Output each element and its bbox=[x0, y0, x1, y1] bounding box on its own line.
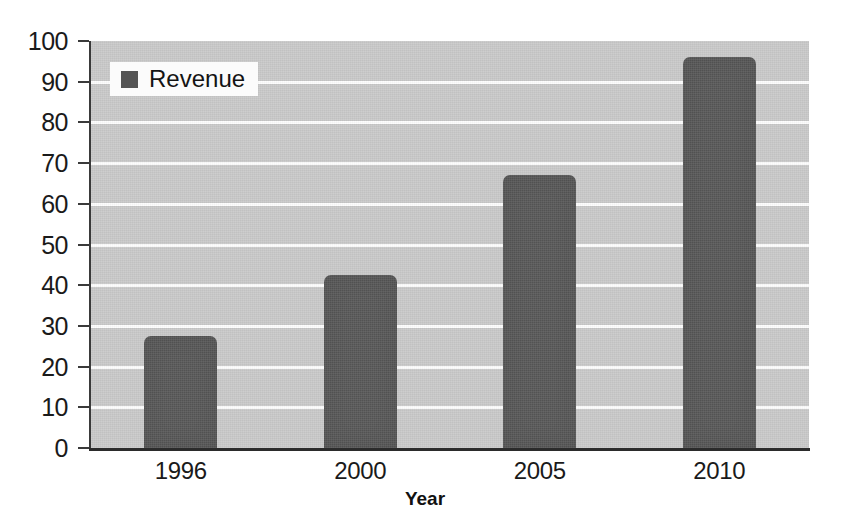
bar-2005 bbox=[503, 175, 576, 448]
y-axis-tick-label: 100 bbox=[12, 29, 68, 54]
y-axis-labels: 0102030405060708090100 bbox=[12, 0, 68, 508]
y-axis-tick-label: 20 bbox=[12, 354, 68, 379]
y-axis-tick bbox=[78, 244, 89, 246]
x-axis-tick-label: 2000 bbox=[290, 459, 430, 483]
y-axis-tick-label: 60 bbox=[12, 191, 68, 216]
y-axis-tick bbox=[78, 406, 89, 408]
y-axis-tick bbox=[78, 366, 89, 368]
x-axis-tick-label: 1996 bbox=[111, 459, 251, 483]
y-axis-tick-label: 80 bbox=[12, 110, 68, 135]
y-axis-tick-label: 50 bbox=[12, 232, 68, 257]
plot-area bbox=[91, 41, 809, 448]
x-axis-tick-label: 2005 bbox=[470, 459, 610, 483]
y-axis-tick bbox=[78, 203, 89, 205]
y-axis-tick bbox=[78, 81, 89, 83]
y-axis-tick-label: 40 bbox=[12, 273, 68, 298]
y-axis-tick bbox=[78, 162, 89, 164]
y-axis-tick bbox=[78, 40, 89, 42]
x-axis-line bbox=[89, 448, 810, 451]
y-axis-tick-label: 30 bbox=[12, 313, 68, 338]
y-axis-tick-label: 70 bbox=[12, 151, 68, 176]
bar-2000 bbox=[324, 275, 397, 448]
y-axis-tick bbox=[78, 325, 89, 327]
y-axis-tick-label: 10 bbox=[12, 395, 68, 420]
bar-1996 bbox=[144, 336, 217, 448]
y-axis-tick-label: 0 bbox=[12, 436, 68, 461]
x-axis-tick-label: 2010 bbox=[649, 459, 789, 483]
y-axis-tick-marks bbox=[78, 0, 90, 508]
y-axis-tick bbox=[78, 447, 89, 449]
y-axis-tick bbox=[78, 121, 89, 123]
y-axis-tick-label: 90 bbox=[12, 69, 68, 94]
bar-2010 bbox=[683, 57, 756, 448]
bar-chart: 0102030405060708090100 Revenue 199620002… bbox=[0, 0, 850, 508]
legend-label-revenue: Revenue bbox=[149, 67, 245, 91]
chart-legend: Revenue bbox=[110, 62, 258, 96]
x-axis-title: Year bbox=[0, 489, 850, 508]
legend-swatch-revenue bbox=[121, 71, 138, 88]
y-axis-tick bbox=[78, 284, 89, 286]
